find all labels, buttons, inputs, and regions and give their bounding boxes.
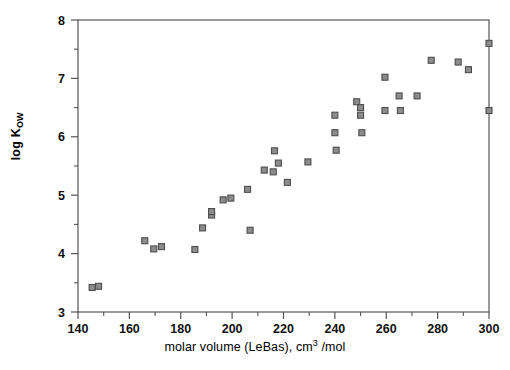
data-point-marker <box>455 59 461 65</box>
x-axis-tick-label: 260 <box>376 322 397 336</box>
y-axis-label-main: log K <box>9 128 23 160</box>
data-point-marker <box>151 246 157 252</box>
x-axis-tick-label: 220 <box>273 322 294 336</box>
data-point-marker <box>358 105 364 111</box>
data-point-marker <box>261 167 267 173</box>
x-axis-label: molar volume (LeBas), cm3 /mol <box>0 338 510 354</box>
data-point-marker <box>305 159 311 165</box>
y-axis-label: log KOW <box>9 81 26 191</box>
data-point-marker <box>486 108 492 114</box>
data-point-marker <box>354 99 360 105</box>
scatter-plot-figure: log KOW 14016018020022024026028030034567… <box>0 0 510 370</box>
x-axis-tick-label: 200 <box>222 322 243 336</box>
data-point-marker <box>465 67 471 73</box>
data-point-marker <box>486 40 492 46</box>
plot-canvas: 140160180200220240260280300345678 <box>0 0 510 370</box>
y-axis-tick-label: 5 <box>58 189 65 203</box>
data-point-marker <box>284 179 290 185</box>
data-point-marker <box>142 238 148 244</box>
y-axis-tick-label: 3 <box>58 306 65 320</box>
data-point-marker <box>247 227 253 233</box>
data-point-marker <box>270 169 276 175</box>
y-axis-label-subscript: OW <box>15 112 25 128</box>
data-point-marker <box>428 57 434 63</box>
data-point-marker <box>382 108 388 114</box>
data-point-marker <box>200 225 206 231</box>
y-axis-tick-label: 4 <box>58 247 65 261</box>
data-point-marker <box>209 209 215 215</box>
data-point-marker <box>96 283 102 289</box>
data-point-marker <box>220 197 226 203</box>
data-point-marker <box>358 112 364 118</box>
data-point-marker <box>272 148 278 154</box>
plot-frame <box>78 20 489 312</box>
x-axis-label-pre: molar volume (LeBas), cm <box>165 340 313 354</box>
data-point-marker <box>192 247 198 253</box>
y-axis-tick-label: 6 <box>58 130 65 144</box>
y-axis-tick-label: 8 <box>58 14 65 28</box>
x-axis-tick-label: 160 <box>119 322 140 336</box>
data-point-marker <box>359 130 365 136</box>
data-point-marker <box>382 74 388 80</box>
data-series <box>89 40 492 290</box>
data-point-marker <box>332 112 338 118</box>
x-axis-tick-label: 140 <box>68 322 89 336</box>
data-point-marker <box>228 195 234 201</box>
data-point-marker <box>333 147 339 153</box>
x-axis-tick-label: 240 <box>324 322 345 336</box>
data-point-marker <box>275 160 281 166</box>
y-axis-tick-label: 7 <box>58 72 65 86</box>
x-axis-tick-label: 300 <box>479 322 500 336</box>
data-point-marker <box>414 93 420 99</box>
x-axis-label-post: /mol <box>318 340 346 354</box>
data-point-marker <box>397 108 403 114</box>
data-point-marker <box>245 186 251 192</box>
data-point-marker <box>158 244 164 250</box>
x-axis-tick-label: 180 <box>170 322 191 336</box>
data-point-marker <box>396 93 402 99</box>
data-point-marker <box>89 284 95 290</box>
data-point-marker <box>332 130 338 136</box>
x-axis-tick-label: 280 <box>427 322 448 336</box>
